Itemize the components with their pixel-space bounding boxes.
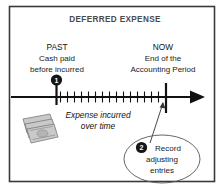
timeline-label-line-2: over time <box>81 121 116 131</box>
diagram-frame <box>10 7 215 182</box>
callout-line-2: adjusting <box>146 155 178 164</box>
callout-line-1: Record <box>155 144 181 153</box>
now-heading: NOW <box>153 42 173 52</box>
numbered-badge-1-icon: 1 <box>51 74 62 85</box>
badge-1-label: 1 <box>55 77 59 84</box>
past-line-1: Cash paid <box>39 54 75 63</box>
now-line-1: End of the <box>145 54 182 63</box>
diagram-canvas: DEFERRED EXPENSE PAST Cash paid before i… <box>0 0 223 188</box>
now-line-2: Accounting Period <box>131 65 196 74</box>
callout-line-3: entries <box>150 166 174 175</box>
page-title: DEFERRED EXPENSE <box>69 15 161 24</box>
past-line-2: before incurred <box>30 65 84 74</box>
past-heading: PAST <box>46 42 67 52</box>
deferred-expense-diagram: DEFERRED EXPENSE PAST Cash paid before i… <box>0 0 223 188</box>
timeline-label-line-1: Expense incurred <box>65 110 131 120</box>
badge-2-label: 2 <box>140 144 144 151</box>
numbered-badge-2-icon: 2 <box>136 142 147 153</box>
